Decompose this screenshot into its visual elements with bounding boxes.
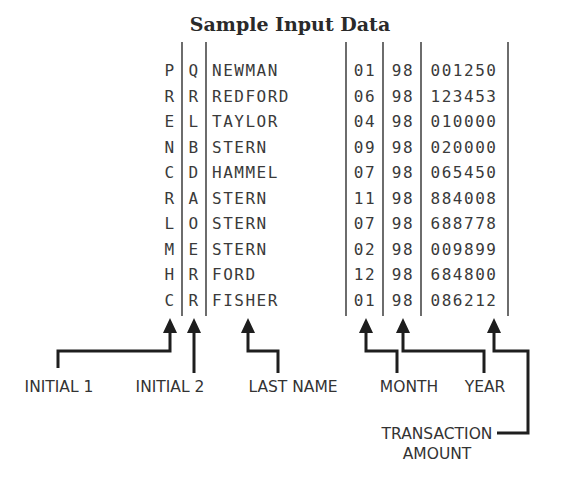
cell-initial-2: A bbox=[188, 189, 199, 208]
table-row: PQNEWMAN0198001250 bbox=[164, 61, 497, 80]
cell-initial-1: N bbox=[164, 138, 175, 157]
cell-last-name: NEWMAN bbox=[212, 61, 279, 80]
table-row: LOSTERN0798688778 bbox=[164, 214, 497, 233]
cell-initial-1: C bbox=[164, 291, 175, 310]
cell-month: 01 bbox=[354, 291, 376, 310]
cell-initial-1: E bbox=[164, 112, 175, 131]
cell-last-name: STERN bbox=[212, 189, 268, 208]
table-row: HRFORD1298684800 bbox=[164, 265, 497, 284]
label-amount: AMOUNT bbox=[403, 445, 472, 463]
cell-year: 98 bbox=[392, 240, 414, 259]
cell-year: 98 bbox=[392, 163, 414, 182]
cell-last-name: REDFORD bbox=[212, 87, 290, 106]
label-last-name: LAST NAME bbox=[248, 378, 337, 396]
arrow-initial-1 bbox=[58, 333, 170, 368]
table-row: MESTERN0298009899 bbox=[164, 240, 497, 259]
cell-last-name: STERN bbox=[212, 138, 268, 157]
arrowhead-year bbox=[396, 318, 410, 333]
arrowhead-transaction-amount bbox=[487, 318, 501, 333]
cell-initial-2: E bbox=[188, 240, 199, 259]
leader-arrows bbox=[58, 318, 528, 433]
cell-year: 98 bbox=[392, 87, 414, 106]
cell-transaction-amount: 123453 bbox=[431, 87, 498, 106]
cell-year: 98 bbox=[392, 291, 414, 310]
table-row: CRFISHER0198086212 bbox=[164, 291, 497, 310]
arrowhead-initial-1 bbox=[163, 318, 177, 333]
sample-input-data-diagram: Sample Input Data PQNEWMAN0198001250RRRE… bbox=[0, 0, 565, 477]
cell-month: 02 bbox=[354, 240, 376, 259]
label-year: YEAR bbox=[464, 378, 506, 396]
cell-month: 01 bbox=[354, 61, 376, 80]
cell-year: 98 bbox=[392, 189, 414, 208]
cell-transaction-amount: 001250 bbox=[431, 61, 498, 80]
data-table: PQNEWMAN0198001250RRREDFORD0698123453ELT… bbox=[164, 61, 497, 310]
label-initial-2: INITIAL 2 bbox=[136, 378, 205, 396]
label-initial-1: INITIAL 1 bbox=[25, 378, 94, 396]
cell-initial-2: R bbox=[188, 291, 199, 310]
cell-transaction-amount: 010000 bbox=[431, 112, 498, 131]
arrow-last-name bbox=[248, 333, 278, 373]
cell-month: 11 bbox=[354, 189, 376, 208]
cell-transaction-amount: 020000 bbox=[431, 138, 498, 157]
cell-initial-1: L bbox=[164, 214, 175, 233]
table-row: CDHAMMEL0798065450 bbox=[164, 163, 497, 182]
arrowhead-month bbox=[359, 318, 373, 333]
diagram-title: Sample Input Data bbox=[190, 13, 390, 35]
cell-initial-1: R bbox=[164, 87, 175, 106]
cell-month: 09 bbox=[354, 138, 376, 157]
cell-month: 04 bbox=[354, 112, 376, 131]
arrow-year bbox=[403, 333, 484, 373]
cell-month: 06 bbox=[354, 87, 376, 106]
table-row: RRREDFORD0698123453 bbox=[164, 87, 497, 106]
cell-transaction-amount: 065450 bbox=[431, 163, 498, 182]
cell-initial-2: B bbox=[188, 138, 199, 157]
cell-year: 98 bbox=[392, 265, 414, 284]
cell-year: 98 bbox=[392, 214, 414, 233]
cell-initial-1: C bbox=[164, 163, 175, 182]
cell-last-name: FISHER bbox=[212, 291, 279, 310]
table-row: RASTERN1198884008 bbox=[164, 189, 497, 208]
cell-year: 98 bbox=[392, 61, 414, 80]
cell-month: 07 bbox=[354, 163, 376, 182]
label-transaction: TRANSACTION bbox=[381, 425, 493, 443]
cell-transaction-amount: 009899 bbox=[431, 240, 498, 259]
arrowhead-last-name bbox=[241, 318, 255, 333]
cell-last-name: HAMMEL bbox=[212, 163, 279, 182]
cell-last-name: STERN bbox=[212, 214, 268, 233]
arrow-month bbox=[366, 333, 397, 373]
cell-last-name: STERN bbox=[212, 240, 268, 259]
table-row: ELTAYLOR0498010000 bbox=[164, 112, 497, 131]
cell-initial-2: O bbox=[188, 214, 199, 233]
cell-transaction-amount: 884008 bbox=[431, 189, 498, 208]
cell-initial-2: L bbox=[188, 112, 199, 131]
cell-initial-2: D bbox=[188, 163, 199, 182]
cell-initial-2: Q bbox=[188, 61, 199, 80]
cell-initial-2: R bbox=[188, 265, 199, 284]
cell-year: 98 bbox=[392, 138, 414, 157]
cell-year: 98 bbox=[392, 112, 414, 131]
cell-last-name: FORD bbox=[212, 265, 257, 284]
cell-initial-1: R bbox=[164, 189, 175, 208]
cell-transaction-amount: 086212 bbox=[431, 291, 498, 310]
cell-month: 12 bbox=[354, 265, 376, 284]
cell-initial-1: M bbox=[164, 240, 175, 259]
cell-initial-2: R bbox=[188, 87, 199, 106]
cell-month: 07 bbox=[354, 214, 376, 233]
cell-transaction-amount: 684800 bbox=[431, 265, 498, 284]
cell-transaction-amount: 688778 bbox=[431, 214, 498, 233]
cell-last-name: TAYLOR bbox=[212, 112, 279, 131]
table-row: NBSTERN0998020000 bbox=[164, 138, 497, 157]
cell-initial-1: H bbox=[164, 265, 175, 284]
arrowhead-initial-2 bbox=[187, 318, 201, 333]
label-month: MONTH bbox=[380, 378, 438, 396]
cell-initial-1: P bbox=[164, 61, 175, 80]
field-labels: INITIAL 1 INITIAL 2 LAST NAME MONTH YEAR… bbox=[25, 378, 506, 463]
